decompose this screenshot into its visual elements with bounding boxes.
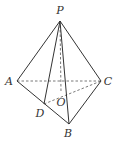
edge-PC [60, 21, 101, 81]
label-O: O [56, 96, 65, 109]
label-C: C [104, 75, 113, 88]
edge-BC [69, 81, 101, 124]
label-D: D [35, 107, 45, 120]
label-P: P [55, 4, 64, 17]
edge-PA [17, 21, 60, 81]
label-A: A [4, 75, 13, 88]
label-B: B [63, 127, 72, 140]
edge-PD [44, 21, 60, 104]
tetrahedron-diagram: P A C B D O [0, 0, 119, 144]
